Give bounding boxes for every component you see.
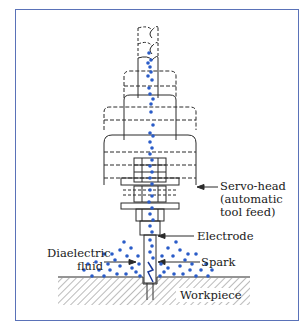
electrode-arrow xyxy=(158,234,165,239)
workpiece-label: Workpiece xyxy=(180,289,242,302)
fluid-arrow xyxy=(129,260,136,265)
spark-icon xyxy=(148,262,153,282)
dielectric-fluid-label: Diaelectric fluid xyxy=(47,247,103,273)
electrode-label: Electrode xyxy=(197,230,254,243)
edm-diagram xyxy=(0,0,304,332)
spark-label: Spark xyxy=(201,256,236,269)
servo-arrow xyxy=(197,185,204,190)
upper-housing xyxy=(104,71,196,130)
servo-head-label: Servo-head (automatic tool feed) xyxy=(220,180,286,219)
